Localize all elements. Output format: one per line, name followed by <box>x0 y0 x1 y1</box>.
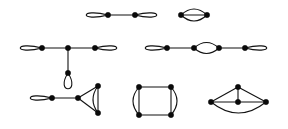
graph-bottom-middle <box>133 84 177 117</box>
graph-edge <box>78 98 98 113</box>
graph-vertex <box>65 45 70 50</box>
graph-vertex <box>216 45 221 50</box>
graph-self-loop <box>245 46 267 50</box>
graph-edge-arc <box>93 86 98 113</box>
graph-vertex <box>49 95 54 100</box>
graph-canvas <box>0 0 288 129</box>
graph-self-loop <box>30 96 52 100</box>
graph-vertex <box>65 70 70 75</box>
graph-self-loop <box>20 46 42 50</box>
graph-vertex <box>242 45 247 50</box>
graph-vertex <box>39 45 44 50</box>
graph-middle-right <box>145 43 267 54</box>
graph-vertex <box>95 110 100 115</box>
graph-vertex <box>95 83 100 88</box>
graph-edge-arc <box>171 87 177 115</box>
graph-edge <box>238 87 266 102</box>
graph-vertex <box>208 99 213 104</box>
graph-bottom-right <box>208 84 268 113</box>
graph-vertex <box>136 84 141 89</box>
graph-vertex <box>235 84 240 89</box>
graph-vertex <box>75 95 80 100</box>
graph-vertex <box>132 12 137 17</box>
graph-vertex <box>164 45 169 50</box>
graph-self-loop <box>135 13 157 17</box>
graph-vertex <box>168 112 173 117</box>
multigraph-figure <box>0 0 288 129</box>
graph-edge-arc <box>181 9 207 15</box>
graph-vertex <box>105 12 110 17</box>
graph-self-loop <box>95 46 117 50</box>
graph-vertex <box>263 99 268 104</box>
graph-edge-arc <box>133 87 139 115</box>
graph-edge-arc <box>194 48 219 54</box>
graph-edge-arc <box>181 15 207 21</box>
graph-vertex <box>191 45 196 50</box>
graph-top-left <box>86 12 157 17</box>
graph-vertex <box>136 112 141 117</box>
graph-middle-left <box>20 45 117 88</box>
graph-self-loop <box>145 46 167 50</box>
graph-vertex <box>204 12 209 17</box>
graph-vertex <box>92 45 97 50</box>
graph-edge <box>211 87 238 102</box>
graph-vertex <box>168 84 173 89</box>
graph-self-loop <box>86 13 108 17</box>
graph-vertex <box>235 99 240 104</box>
graph-edge-arc <box>194 43 219 49</box>
graph-top-right <box>178 9 209 21</box>
graph-vertex <box>178 12 183 17</box>
